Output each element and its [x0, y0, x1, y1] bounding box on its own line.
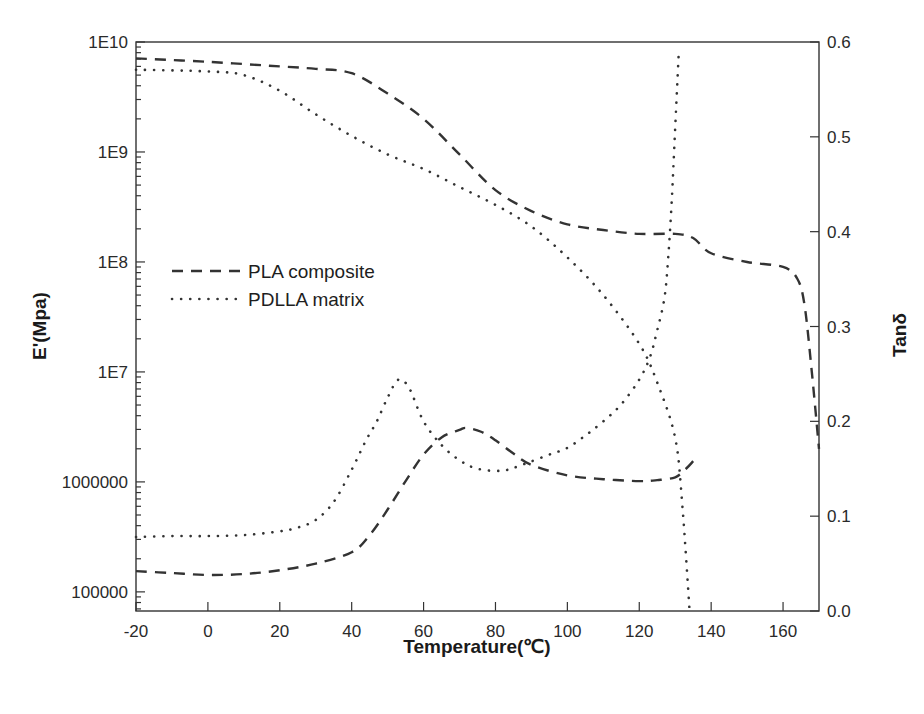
legend: PLA composite PDLLA matrix [172, 261, 375, 310]
y-right-tick-label: 0.5 [827, 128, 851, 147]
pla-composite-e-line [136, 58, 819, 448]
y-right-tick-label: 0.2 [827, 412, 851, 431]
y-left-tick-label: 1000000 [62, 473, 128, 492]
y-right-tick-label: 0.3 [827, 318, 851, 337]
y-left-tick-label: 100000 [71, 583, 128, 602]
x-tick-label: 160 [769, 622, 797, 641]
plot-frame [136, 42, 819, 611]
plot-area [136, 51, 819, 611]
x-tick-label: 140 [697, 622, 725, 641]
y-axis-left: 1E101E91E81E71000000100000 [62, 33, 145, 609]
y-left-tick-label: 1E9 [98, 143, 128, 162]
dma-chart: -20020406080100120140160 1E101E91E81E710… [0, 0, 924, 714]
y-axis-right-title: Tanδ [889, 313, 910, 357]
pdlla-matrix-e-line [136, 70, 690, 611]
x-tick-label: 40 [342, 622, 361, 641]
y-right-tick-label: 0.1 [827, 507, 851, 526]
y-left-tick-label: 1E8 [98, 253, 128, 272]
y-right-tick-label: 0.0 [827, 602, 851, 621]
x-tick-label: 120 [625, 622, 653, 641]
legend-label-pla-composite: PLA composite [248, 261, 375, 282]
x-axis-title: Temperature(℃) [403, 636, 550, 657]
pdlla-matrix-tan-line [136, 51, 679, 537]
y-right-tick-label: 0.6 [827, 33, 851, 52]
x-tick-label: 20 [270, 622, 289, 641]
y-left-tick-label: 1E10 [88, 33, 128, 52]
y-axis-left-title: E'(Mpa) [29, 292, 50, 360]
y-right-tick-label: 0.4 [827, 223, 851, 242]
y-axis-right: 0.60.50.40.30.20.10.0 [810, 33, 851, 621]
y-left-tick-label: 1E7 [98, 363, 128, 382]
x-tick-label: -20 [124, 622, 149, 641]
pla-composite-tan-line [136, 428, 693, 575]
legend-label-pdlla-matrix: PDLLA matrix [248, 289, 365, 310]
x-tick-label: 100 [553, 622, 581, 641]
x-tick-label: 0 [203, 622, 212, 641]
